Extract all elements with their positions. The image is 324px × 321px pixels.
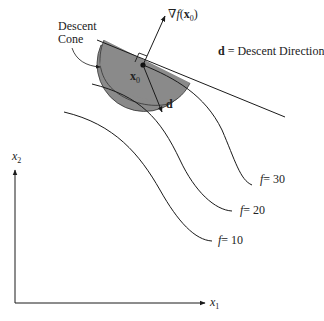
contour-f30-value: = 30 xyxy=(263,172,285,186)
contour-f10-value: = 10 xyxy=(221,233,243,247)
legend-descent-direction: d = Descent Direction xyxy=(218,45,324,57)
legend-d: d xyxy=(218,44,225,58)
legend-text: = Descent Direction xyxy=(225,44,324,58)
x0-label: x0 xyxy=(130,70,140,85)
contour-f20-value: = 20 xyxy=(243,203,265,217)
descent-cone-callout xyxy=(72,48,100,67)
x1-axis-label: x1 xyxy=(210,296,219,311)
contour-label-f10: f= 10 xyxy=(218,234,243,246)
paren-close: ) xyxy=(194,7,198,21)
contour-label-f20: f= 20 xyxy=(240,204,265,216)
x1-sub: 1 xyxy=(215,302,219,311)
x0-sub: 0 xyxy=(136,76,140,85)
gradient-label: ∇f(x0) xyxy=(168,8,198,23)
x2-sub: 2 xyxy=(17,156,21,165)
descent-cone-label-line2: Cone xyxy=(58,33,97,46)
d-label: d xyxy=(166,98,173,110)
x2-axis-label: x2 xyxy=(12,150,21,165)
descent-cone-label: Descent Cone xyxy=(58,20,97,46)
gradient-arrow xyxy=(143,16,165,65)
contour-label-f30: f= 30 xyxy=(260,173,285,185)
contour-f10 xyxy=(64,112,212,241)
